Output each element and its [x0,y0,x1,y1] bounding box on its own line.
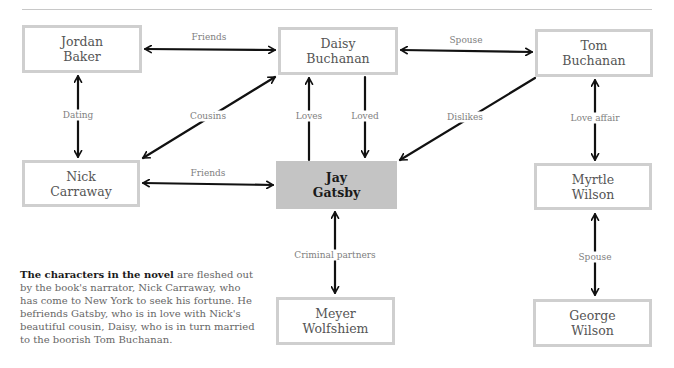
node-george-wilson: George Wilson [533,299,652,347]
label-love-affair: Love affair [569,113,622,124]
node-meyer-wolfshiem: Meyer Wolfshiem [276,297,395,345]
node-daisy-buchanan: Daisy Buchanan [278,27,398,75]
label-criminal-partners: Criminal partners [292,250,377,261]
caption-text: The characters in the novel are fleshed … [20,268,255,346]
edge-daisy-tom [401,50,532,52]
label-friends-jordan-daisy: Friends [190,32,229,43]
label-dating: Dating [61,110,96,121]
node-myrtle-wilson: Myrtle Wilson [534,163,652,210]
label-spouse-daisy-tom: Spouse [447,35,484,46]
node-tom-buchanan: Tom Buchanan [535,29,653,77]
label-spouse-myrtle-george: Spouse [576,252,613,263]
edge-nick-jay [143,183,273,185]
label-cousins: Cousins [188,111,228,122]
edge-jordan-daisy [145,49,275,50]
label-friends-nick-jay: Friends [189,168,228,179]
label-loved: Loved [349,111,381,122]
node-jordan-baker: Jordan Baker [22,25,142,73]
label-dislikes: Dislikes [445,112,485,123]
caption-rest: are fleshed out by the book's narrator, … [20,269,255,345]
caption-bold: The characters in the novel [20,269,174,280]
node-nick-carraway: Nick Carraway [22,160,140,207]
node-jay-gatsby: Jay Gatsby [276,161,397,209]
label-loves: Loves [294,111,324,122]
